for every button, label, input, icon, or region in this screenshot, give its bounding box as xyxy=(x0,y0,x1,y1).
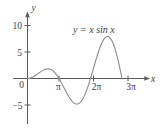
equation-annotation: y = x sin x xyxy=(72,24,115,35)
x-ticklabel-2pi: 2π xyxy=(92,82,102,92)
y-ticklabel-10: 10 xyxy=(13,21,23,31)
x-ticklabel-pi: π xyxy=(56,82,61,92)
figure-container: y x 10 5 0 −5 π 2π xyxy=(0,0,160,128)
y-axis: y xyxy=(25,3,36,124)
x-axis-label: x xyxy=(150,74,156,84)
y-ticklabel-minus5: −5 xyxy=(12,101,22,111)
x-tick-labels: π 2π 3π xyxy=(56,82,136,92)
y-axis-arrowhead xyxy=(25,12,30,18)
x-axis-arrowhead xyxy=(144,76,150,81)
curve-x-sin-x xyxy=(28,37,123,104)
y-ticklabel-0: 0 xyxy=(19,80,24,90)
y-axis-label: y xyxy=(31,3,37,13)
y-ticklabel-5: 5 xyxy=(17,48,22,58)
chart-svg: y x 10 5 0 −5 π 2π xyxy=(0,0,160,128)
y-tick-labels: 10 5 0 −5 xyxy=(12,21,24,111)
x-ticklabel-3pi: 3π xyxy=(126,82,136,92)
